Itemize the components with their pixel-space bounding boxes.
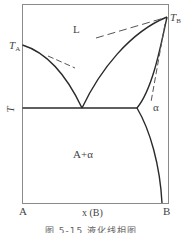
tangent-dashed-left <box>48 56 75 68</box>
label-TA-sub: A <box>15 45 20 53</box>
x-left-end-label: A <box>19 206 27 217</box>
solvus-curve <box>137 108 162 203</box>
region-label-alpha: α <box>153 102 159 113</box>
figure-caption: 图 5-15 液化线相图 <box>0 224 182 233</box>
tangent-dashed-top <box>96 18 164 38</box>
label-TB-sub: B <box>176 17 181 25</box>
region-label-liquid: L <box>73 24 80 35</box>
x-axis-label: x (B) <box>82 208 103 218</box>
phase-diagram <box>0 0 182 233</box>
label-TB: TB <box>170 12 181 25</box>
region-label-two-phase: A+α <box>73 149 93 160</box>
y-axis-label: T <box>5 106 16 112</box>
plot-frame <box>23 5 169 204</box>
label-TA: TA <box>9 40 20 53</box>
liquidus-left-curve <box>23 45 83 108</box>
liquidus-right-curve <box>82 17 167 108</box>
x-right-end-label: B <box>163 206 170 217</box>
tangent-dashed-right <box>151 24 165 102</box>
